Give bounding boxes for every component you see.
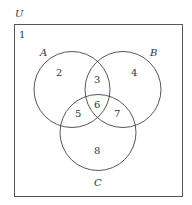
universe-label: U xyxy=(15,8,24,19)
region-c-only: 8 xyxy=(94,145,100,156)
region-outside: 1 xyxy=(19,29,25,40)
region-a-only: 2 xyxy=(56,67,62,78)
region-a-c: 5 xyxy=(75,108,81,119)
region-b-c: 7 xyxy=(114,108,120,119)
region-a-b: 3 xyxy=(94,74,100,85)
region-b-only: 4 xyxy=(131,67,137,78)
set-b-label: B xyxy=(149,47,157,58)
venn-diagram: U 1 A B C 2 3 4 5 6 7 8 xyxy=(0,0,192,205)
set-c-label: C xyxy=(94,177,102,188)
set-b-circle xyxy=(85,52,161,128)
set-a-circle xyxy=(34,52,110,128)
set-a-label: A xyxy=(39,47,47,58)
region-a-b-c: 6 xyxy=(94,99,100,110)
